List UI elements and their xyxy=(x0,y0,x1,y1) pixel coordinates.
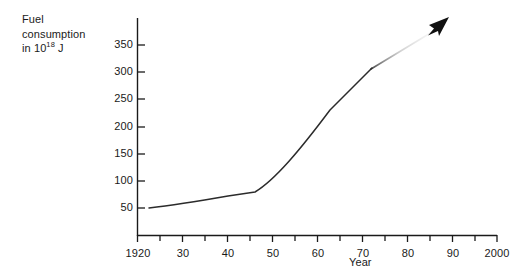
y-tick-label-100: 100 xyxy=(99,174,133,186)
y-axis-ticks xyxy=(138,45,146,208)
y-tick-label-350: 350 xyxy=(99,38,133,50)
y-axis-title-unit: J xyxy=(55,42,64,54)
y-axis-title-line1: Fuel xyxy=(22,13,44,25)
y-axis-title-exponent: 18 xyxy=(46,40,55,49)
y-tick-label-250: 250 xyxy=(99,92,133,104)
x-tick-label-1990: 90 xyxy=(433,247,473,259)
y-axis-title-line2: consumption xyxy=(22,28,85,40)
x-axis-title: Year xyxy=(349,255,372,270)
y-tick-label-200: 200 xyxy=(99,120,133,132)
x-tick-label-2000: 2000 xyxy=(477,247,516,259)
y-axis-title-line3: in 10 xyxy=(22,42,46,54)
trend-arrow-icon xyxy=(428,17,449,36)
y-tick-label-150: 150 xyxy=(99,147,133,159)
x-tick-label-1950: 50 xyxy=(253,247,293,259)
y-axis-title: Fuelconsumptionin 1018 J xyxy=(22,12,85,56)
x-tick-label-1980: 80 xyxy=(388,247,428,259)
x-tick-label-1920: 1920 xyxy=(118,247,158,259)
x-tick-label-1930: 30 xyxy=(163,247,203,259)
y-tick-label-300: 300 xyxy=(99,65,133,77)
x-tick-label-1960: 60 xyxy=(298,247,338,259)
y-tick-label-50: 50 xyxy=(99,201,133,213)
x-tick-label-1940: 40 xyxy=(208,247,248,259)
fuel-consumption-chart: Fuelconsumptionin 1018 J 350 300 250 200… xyxy=(0,0,516,274)
projection-line xyxy=(371,29,437,69)
data-line xyxy=(149,68,372,208)
